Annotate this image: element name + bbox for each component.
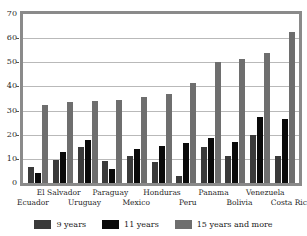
bar (282, 119, 288, 183)
bar (85, 140, 91, 183)
bar-group (100, 14, 125, 183)
bar (232, 142, 238, 183)
legend-item-2[interactable]: 15 years and more (175, 220, 273, 229)
bar (141, 97, 147, 183)
bar (53, 160, 59, 183)
bar-group (149, 14, 174, 183)
bar-group (198, 14, 223, 183)
bar-chart: 010203040506070 EcuadorEl SalvadorUrugua… (0, 0, 307, 236)
bar (109, 169, 115, 183)
bar (275, 156, 281, 183)
bar (264, 53, 270, 183)
plot-inner (23, 14, 299, 183)
legend-swatch-icon (34, 220, 51, 229)
bar-groups (23, 14, 299, 183)
bar (289, 32, 295, 183)
legend-swatch-icon (102, 220, 119, 229)
bar (166, 94, 172, 183)
x-axis-label-costa-rica: Costa Rica (261, 198, 307, 207)
bar (60, 152, 66, 183)
bar (42, 105, 48, 183)
bar (127, 156, 133, 183)
bar-group (248, 14, 273, 183)
y-tick-mark-20 (16, 135, 19, 136)
bar-group (75, 14, 100, 183)
bar-group (26, 14, 51, 183)
bar (67, 102, 73, 183)
bar (35, 173, 41, 183)
x-axis-label-venezuela: Venezuela (235, 188, 295, 197)
bar-group (174, 14, 199, 183)
y-tick-mark-60 (16, 38, 19, 39)
bar (152, 162, 158, 183)
legend-label: 15 years and more (197, 220, 273, 229)
bar (201, 147, 207, 183)
y-axis: 010203040506070 (0, 0, 19, 196)
bar (250, 135, 256, 183)
bar (225, 156, 231, 183)
legend-item-0[interactable]: 9 years (34, 220, 86, 229)
bar (78, 147, 84, 183)
bar (239, 59, 245, 183)
x-axis-labels: EcuadorEl SalvadorUruguayParaguayMexicoH… (20, 186, 304, 212)
y-tick-mark-30 (16, 111, 19, 112)
chart-legend: 9 years11 years15 years and more (0, 212, 307, 236)
bar (208, 138, 214, 183)
bar (159, 146, 165, 183)
bar (92, 101, 98, 183)
y-tick-label-0: 0 (12, 179, 17, 187)
bar-group (223, 14, 248, 183)
y-tick-mark-10 (16, 159, 19, 160)
y-tick-mark-50 (16, 62, 19, 63)
bar (183, 143, 189, 183)
bar-group (125, 14, 150, 183)
bar-group (51, 14, 76, 183)
legend-swatch-icon (175, 220, 192, 229)
bar (102, 161, 108, 183)
y-tick-mark-40 (16, 86, 19, 87)
bar (176, 176, 182, 183)
legend-label: 9 years (56, 220, 86, 229)
legend-label: 11 years (124, 220, 159, 229)
legend-item-1[interactable]: 11 years (102, 220, 159, 229)
bar (116, 100, 122, 183)
y-tick-label-70: 70 (7, 10, 17, 18)
bar (215, 62, 221, 183)
bar (190, 83, 196, 183)
bar (28, 167, 34, 183)
bar (257, 117, 263, 183)
bar-group (272, 14, 297, 183)
bar (134, 149, 140, 183)
plot-area (20, 11, 302, 186)
plot-wrapper: 010203040506070 EcuadorEl SalvadorUrugua… (0, 0, 307, 196)
